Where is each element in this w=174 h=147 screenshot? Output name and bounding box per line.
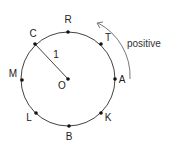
radius-label: 1	[53, 49, 59, 60]
point-k	[99, 111, 103, 115]
unit-circle-diagram: O 1 R T A K B L M C positive	[0, 0, 174, 147]
point-r	[66, 30, 70, 34]
center-label: O	[58, 80, 66, 91]
positive-label: positive	[127, 38, 161, 49]
point-c-label: C	[29, 28, 36, 39]
point-l-label: L	[26, 112, 32, 123]
point-l	[34, 111, 38, 115]
radius-line	[35, 44, 68, 79]
point-t	[99, 42, 103, 46]
point-a	[113, 77, 117, 81]
point-b-label: B	[66, 131, 73, 142]
point-r-label: R	[64, 14, 71, 25]
point-t-label: T	[105, 32, 111, 43]
positive-direction-arrow-icon	[97, 22, 130, 79]
point-a-label: A	[119, 74, 126, 85]
point-k-label: K	[105, 112, 112, 123]
point-m-label: M	[9, 68, 17, 79]
point-m	[20, 78, 24, 82]
center-point	[66, 77, 70, 81]
point-b	[67, 124, 71, 128]
point-c	[33, 42, 37, 46]
